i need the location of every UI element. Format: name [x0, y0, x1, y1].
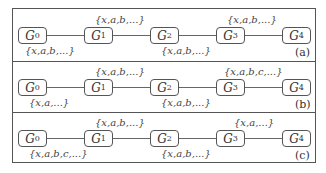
node-g0: G0 — [18, 130, 47, 147]
node-g1: G1 — [84, 79, 113, 96]
edge-g0-g1 — [47, 87, 85, 88]
node-g4: G4 — [282, 27, 311, 44]
node-g2: G2 — [150, 130, 179, 147]
edge-g2-g3 — [179, 138, 217, 139]
edge-label-g0-g1: {x,a,b,...} — [25, 46, 75, 56]
edge-g3-g4 — [245, 87, 283, 88]
node-g3: G3 — [216, 27, 245, 44]
node-g3: G3 — [216, 130, 245, 147]
node-g1: G1 — [84, 130, 113, 147]
edge-label-g0-g1: {x,a,b,c,...} — [29, 149, 88, 159]
node-g0: G0 — [18, 27, 47, 44]
node-g4: G4 — [282, 130, 311, 147]
edge-g1-g2 — [113, 138, 151, 139]
edge-g3-g4 — [245, 138, 283, 139]
node-g1: G1 — [84, 27, 113, 44]
node-g2: G2 — [150, 79, 179, 96]
edge-g2-g3 — [179, 35, 217, 36]
edge-g1-g2 — [113, 87, 151, 88]
node-g2: G2 — [150, 27, 179, 44]
panel-tag-b: (b) — [295, 99, 311, 110]
edge-label-g1-g2: {x,a,b,...} — [95, 67, 145, 77]
edge-label-g2-g3: {x,a,b,...} — [161, 149, 211, 159]
panel-tag-a: (a) — [295, 47, 310, 58]
edge-label-g3-g4: {x,a,b,...} — [227, 15, 277, 25]
edge-label-g3-g4: {x,a,...} — [234, 118, 274, 128]
edge-g2-g3 — [179, 87, 217, 88]
panel-a: G0 G1 G2 G3 G4 {x,a,b,...} {x,a,b,...} {… — [13, 9, 315, 60]
edge-label-g3-g4: {x,a,b,c,...} — [224, 67, 283, 77]
edge-g0-g1 — [47, 35, 85, 36]
edge-label-g0-g1: {x,a,...} — [29, 98, 69, 108]
node-g0: G0 — [18, 79, 47, 96]
edge-label-g1-g2: {x,a,b,...} — [95, 118, 145, 128]
panel-b: G0 G1 G2 G3 G4 {x,a,...} {x,a,b,...} {x,… — [13, 61, 315, 113]
edge-label-g1-g2: {x,a,b,...} — [95, 15, 145, 25]
edge-g1-g2 — [113, 35, 151, 36]
node-g3: G3 — [216, 79, 245, 96]
panel-tag-c: (c) — [295, 150, 310, 161]
panel-c: G0 G1 G2 G3 G4 {x,a,b,c,...} {x,a,b,...}… — [13, 112, 315, 164]
node-g4: G4 — [282, 79, 311, 96]
edge-g0-g1 — [47, 138, 85, 139]
edge-label-g2-g3: {x,a,b,...} — [161, 46, 211, 56]
edge-label-g2-g3: {x,a,b,...} — [161, 98, 211, 108]
edge-g3-g4 — [245, 35, 283, 36]
diagram-frame: G0 G1 G2 G3 G4 {x,a,b,...} {x,a,b,...} {… — [12, 8, 316, 163]
